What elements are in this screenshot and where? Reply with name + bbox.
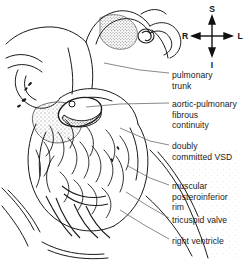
label-line: pulmonary	[172, 70, 213, 81]
label-line: rim	[172, 202, 228, 213]
label-muscular-posteroinferior-rim: muscular posteroinferior rim	[172, 181, 228, 213]
compass-label-left: L	[237, 31, 242, 41]
label-line: doubly	[172, 141, 232, 152]
label-line: aortic-pulmonary	[172, 99, 237, 110]
compass-arrow-right	[192, 33, 200, 39]
compass-label-right: R	[182, 31, 189, 41]
label-line: trunk	[172, 81, 213, 92]
label-pulmonary-trunk: pulmonary trunk	[172, 70, 213, 91]
compass-arrow-left	[224, 33, 232, 39]
label-right-ventricle: right ventricle	[172, 236, 224, 247]
label-tricuspid-valve: tricuspid valve	[172, 215, 227, 226]
label-line: posteroinferior	[172, 192, 228, 203]
label-line: right ventricle	[172, 236, 224, 247]
compass-label-superior: S	[209, 4, 215, 14]
label-doubly-committed-vsd: doubly committed VSD	[172, 141, 232, 162]
label-line: tricuspid valve	[172, 215, 227, 226]
cardiac-anatomy-figure: S I R L pulmonary trunk aortic-pulmonary…	[0, 0, 251, 260]
compass-label-inferior: I	[211, 60, 213, 70]
label-aortic-pulmonary-fibrous-continuity: aortic-pulmonary fibrous continuity	[172, 99, 237, 131]
compass-arrow-superior	[209, 16, 215, 24]
compass-arrow-inferior	[209, 48, 215, 56]
label-line: continuity	[172, 120, 237, 131]
label-line: muscular	[172, 181, 228, 192]
label-line: fibrous	[172, 110, 237, 121]
label-line: committed VSD	[172, 152, 232, 163]
